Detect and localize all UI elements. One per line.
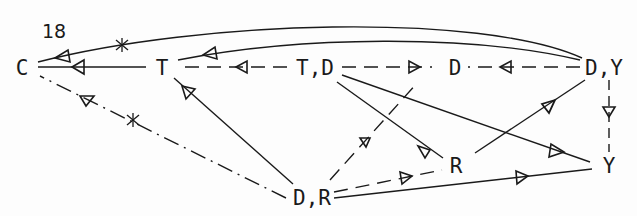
- edge-td-to-r: [337, 82, 443, 158]
- node-td: T,D: [296, 58, 334, 79]
- node-c: C: [16, 58, 29, 79]
- node-y: Y: [603, 156, 616, 177]
- edge-dr-to-r: [334, 170, 442, 192]
- node-r: R: [450, 156, 463, 177]
- node-t: T: [156, 58, 169, 79]
- diagram: 18 C T T,D D D,Y R Y D,R: [0, 0, 637, 216]
- diagram-edges: [0, 0, 637, 216]
- edge-dr-to-c: [40, 76, 286, 198]
- figure-number-label: 18: [42, 22, 66, 41]
- arrowhead-dr-t: [182, 86, 195, 99]
- edge-td-to-y: [342, 75, 590, 162]
- node-dr: D,R: [293, 188, 331, 209]
- node-dy: D,Y: [585, 58, 623, 79]
- edge-dr-to-y: [334, 169, 592, 198]
- edge-dr-to-t: [174, 78, 293, 184]
- edge-dy-to-t: [178, 41, 580, 60]
- node-d: D: [449, 58, 462, 79]
- edge-r-to-dy: [475, 80, 585, 153]
